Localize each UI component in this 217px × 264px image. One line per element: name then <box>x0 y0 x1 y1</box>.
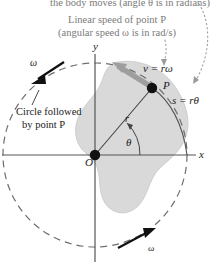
circle-caption-leader <box>32 90 39 105</box>
theta-angle-label: θ <box>126 136 131 148</box>
caption-circle-line2: by point P <box>22 119 118 132</box>
figure-canvas <box>0 0 217 264</box>
point-p-dot <box>147 83 157 93</box>
omega-label-bottom: ω <box>148 243 154 253</box>
arc-length-equation-label: s = rθ <box>172 94 199 106</box>
rigid-body-shape <box>76 61 188 213</box>
caption-linear-speed-line2: (angular speed ω is in rad/s) <box>38 27 196 40</box>
leader-dotted-velocity <box>164 40 166 62</box>
velocity-equation-label: v = rω <box>143 62 173 74</box>
rotational-motion-figure: the body moves (angle θ is in radians) L… <box>0 0 217 264</box>
leader-dotted-arc <box>196 4 208 80</box>
radius-label: r <box>125 113 129 124</box>
caption-circle-line1: Circle followed <box>16 106 112 119</box>
y-axis-label: y <box>93 40 98 52</box>
x-axis-label: x <box>199 148 204 160</box>
point-p-label: P <box>163 79 170 91</box>
caption-top-line: the body moves (angle θ is in radians) <box>50 0 210 10</box>
omega-label-top: ω <box>30 57 37 68</box>
origin-label: O <box>85 156 93 168</box>
caption-linear-speed-line1: Linear speed of point P <box>42 14 192 27</box>
